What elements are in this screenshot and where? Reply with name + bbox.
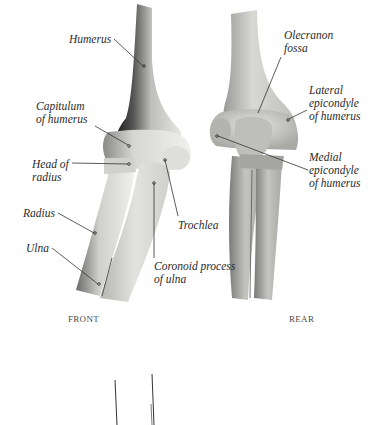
label-olecranon-fossa: Olecranon fossa bbox=[284, 29, 333, 55]
front-view-bones bbox=[76, 4, 191, 302]
label-humerus: Humerus bbox=[69, 33, 111, 46]
front-radius-head bbox=[104, 158, 136, 174]
label-medial-epicondyle: Medial epicondyle of humerus bbox=[309, 151, 360, 190]
rear-radius bbox=[254, 156, 282, 300]
leader-radius bbox=[58, 213, 94, 233]
label-head-radius-line2: radius bbox=[32, 171, 69, 184]
label-head-radius-line1: Head of bbox=[32, 158, 69, 171]
label-trochlea: Trochlea bbox=[178, 219, 218, 232]
elbow-illustration bbox=[0, 0, 368, 425]
label-lateral-epicondyle: Lateral epicondyle of humerus bbox=[309, 84, 360, 123]
label-lateral-line3: of humerus bbox=[309, 110, 360, 123]
rear-medial-bulge bbox=[211, 118, 231, 142]
caption-rear: REAR bbox=[289, 314, 314, 324]
label-olecranon-line2: fossa bbox=[284, 42, 333, 55]
label-coronoid-line2: of ulna bbox=[154, 273, 235, 286]
label-lateral-line1: Lateral bbox=[309, 84, 360, 97]
label-head-of-radius: Head of radius bbox=[32, 158, 69, 184]
label-medial-line1: Medial bbox=[309, 151, 360, 164]
partial-figure-strokes bbox=[115, 374, 154, 425]
label-coronoid-process: Coronoid process of ulna bbox=[154, 260, 235, 286]
label-radius: Radius bbox=[23, 207, 55, 220]
elbow-diagram: Humerus Capitulum of humerus Head of rad… bbox=[0, 0, 368, 425]
caption-front: FRONT bbox=[68, 314, 99, 324]
label-capitulum-line1: Capitulum bbox=[36, 100, 87, 113]
label-coronoid-line1: Coronoid process bbox=[154, 260, 235, 273]
label-medial-line3: of humerus bbox=[309, 177, 360, 190]
label-capitulum-line2: of humerus bbox=[36, 113, 87, 126]
rear-radius-head bbox=[240, 154, 284, 170]
label-ulna: Ulna bbox=[26, 242, 49, 255]
label-medial-line2: epicondyle bbox=[309, 164, 360, 177]
label-capitulum: Capitulum of humerus bbox=[36, 100, 87, 126]
label-lateral-line2: epicondyle bbox=[309, 97, 360, 110]
label-olecranon-line1: Olecranon bbox=[284, 29, 333, 42]
